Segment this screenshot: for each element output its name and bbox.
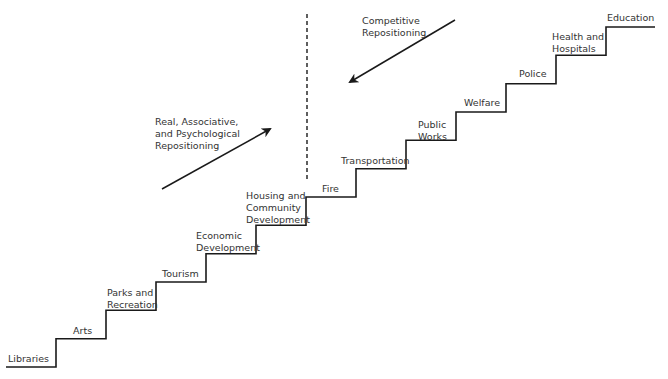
step-label-tourism: Tourism [162, 268, 199, 280]
annotation-competitive-repositioning: Competitive Repositioning [362, 15, 426, 39]
step-label-public-works: Public Works [418, 119, 447, 143]
step-label-welfare: Welfare [464, 97, 500, 109]
step-label-education: Education [607, 12, 654, 24]
step-label-economic-development: Economic Development [196, 230, 260, 254]
step-label-arts: Arts [73, 325, 92, 337]
staircase-line [6, 27, 655, 367]
step-label-health-hospitals: Health and Hospitals [552, 31, 604, 55]
annotation-real-associative-psychological: Real, Associative, and Psychological Rep… [155, 116, 240, 152]
step-label-libraries: Libraries [8, 353, 49, 365]
step-label-fire: Fire [322, 183, 339, 195]
step-label-parks-recreation: Parks and Recreation [107, 287, 158, 311]
step-label-housing-community-development: Housing and Community Development [246, 190, 310, 226]
step-label-transportation: Transportation [341, 155, 410, 167]
step-label-police: Police [519, 68, 547, 80]
